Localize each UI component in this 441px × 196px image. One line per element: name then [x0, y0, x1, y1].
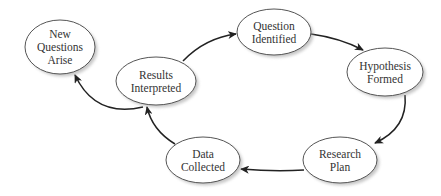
- node-label-line: Questions: [37, 41, 84, 53]
- node-label-line: New: [49, 28, 71, 40]
- node-label-line: Arise: [48, 54, 73, 66]
- arrow-question-to-hypothesis: [311, 34, 363, 50]
- node-label-line: Question: [253, 20, 295, 32]
- node-hypothesis: HypothesisFormed: [347, 48, 426, 99]
- node-newq: NewQuestionsArise: [25, 20, 98, 77]
- research-cycle-diagram: QuestionIdentifiedHypothesisFormedResear…: [0, 0, 441, 196]
- node-question: QuestionIdentified: [237, 9, 314, 58]
- node-label-line: Interpreted: [131, 82, 182, 95]
- node-label-line: Plan: [330, 161, 351, 173]
- arrow-data-to-results: [147, 107, 175, 144]
- node-label-line: Data: [192, 148, 214, 160]
- node-research: ResearchPlan: [303, 137, 380, 186]
- arrow-hypothesis-to-research: [375, 95, 405, 143]
- node-data: DataCollected: [166, 137, 243, 186]
- node-label-line: Formed: [367, 73, 403, 85]
- node-label-line: Results: [139, 69, 173, 81]
- arrow-research-to-data: [241, 169, 304, 171]
- node-label-line: Hypothesis: [359, 60, 411, 73]
- node-label-line: Collected: [181, 161, 225, 173]
- node-results: ResultsInterpreted: [116, 57, 199, 108]
- node-label-line: Research: [319, 148, 361, 160]
- arrow-results-to-question: [183, 34, 236, 61]
- node-label-line: Identified: [252, 33, 297, 45]
